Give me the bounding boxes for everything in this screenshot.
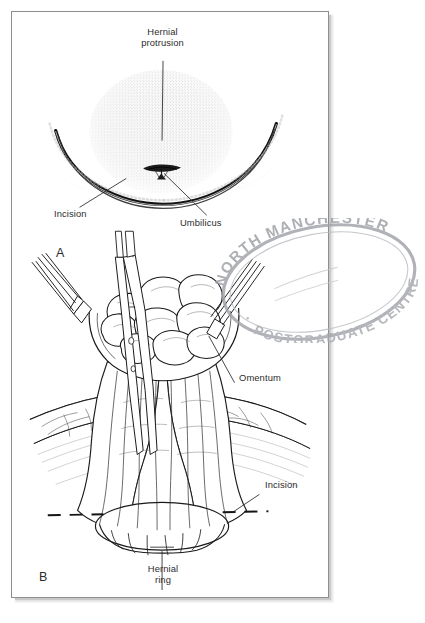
label-umbilicus: Umbilicus — [180, 217, 222, 228]
panel-a-illustration — [32, 52, 310, 226]
label-incision-b: Incision — [265, 479, 298, 490]
label-incision-a: Incision — [54, 208, 87, 219]
figure-frame: Hernial protrusion Incision Umbilicus A … — [11, 11, 329, 598]
panel-b-illustration — [30, 231, 310, 590]
label-omentum: Omentum — [239, 372, 281, 383]
panel-letter-b: B — [39, 570, 48, 584]
figure-illustration — [12, 12, 328, 597]
label-hernial-protrusion: Hernial protrusion — [115, 26, 210, 48]
panel-letter-a: A — [56, 246, 65, 260]
label-hernial-ring: Hernial ring — [122, 563, 204, 585]
